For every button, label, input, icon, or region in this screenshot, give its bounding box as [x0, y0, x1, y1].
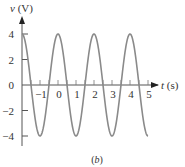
figure-caption: (b) — [91, 154, 103, 166]
x-tick-label: −1 — [35, 88, 47, 100]
x-axis-arrow-icon — [151, 82, 159, 88]
x-tick-label: 1 — [74, 88, 80, 100]
y-tick-label: −2 — [2, 105, 14, 117]
x-tick-label: 0 — [56, 88, 62, 100]
voltage-chart: −4−2024−1012345 v (V) t (s) (b) — [0, 0, 185, 167]
x-tick-label: 4 — [128, 88, 134, 100]
y-axis-label: v (V) — [10, 2, 33, 15]
x-axis-label: t (s) — [161, 79, 179, 92]
y-tick-label: 4 — [9, 28, 15, 40]
y-tick-label: 0 — [9, 79, 15, 91]
x-tick-label: 2 — [92, 88, 98, 100]
x-tick-label: 5 — [146, 88, 152, 100]
x-tick-label: 3 — [110, 88, 116, 100]
axes: −4−2024−1012345 — [2, 16, 159, 146]
y-tick-label: −4 — [2, 130, 14, 142]
y-tick-label: 2 — [9, 54, 15, 66]
y-axis-arrow-icon — [19, 16, 25, 24]
